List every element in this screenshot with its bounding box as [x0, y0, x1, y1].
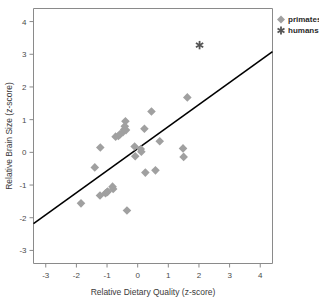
x-tick-label: -3	[42, 271, 50, 280]
point-marker-diamond	[147, 107, 156, 116]
y-tick-label: -1	[19, 181, 27, 190]
x-tick-label: 3	[227, 271, 232, 280]
y-axis-title: Relative Brain Size (z-score)	[4, 82, 14, 190]
x-axis: -3-2-101234	[42, 264, 263, 280]
x-axis-title: Relative Dietary Quality (z-score)	[91, 287, 216, 297]
x-tick-label: 4	[258, 271, 263, 280]
x-tick-label: 0	[135, 271, 140, 280]
legend-marker-diamond	[277, 16, 285, 24]
y-axis: -3-2-101234	[19, 18, 33, 256]
x-tick-label: -2	[73, 271, 81, 280]
point-marker-diamond	[179, 144, 188, 153]
point-marker-diamond	[179, 153, 188, 162]
y-tick-label: -3	[19, 246, 27, 255]
point-marker-diamond	[90, 163, 99, 172]
x-tick-label: 2	[197, 271, 202, 280]
point-marker-diamond	[183, 93, 192, 102]
point-marker-diamond	[140, 125, 149, 134]
legend-label: primates	[288, 15, 319, 24]
regression-line	[34, 52, 273, 224]
y-tick-label: 4	[22, 18, 27, 27]
plot-canvas: -3-2-101234 -3-2-101234 Relative Dietary…	[0, 0, 319, 301]
x-tick-label: 1	[166, 271, 171, 280]
point-marker-diamond	[151, 166, 160, 175]
y-tick-label: 0	[22, 148, 27, 157]
scatter-plot-figure: -3-2-101234 -3-2-101234 Relative Dietary…	[0, 0, 319, 301]
y-tick-label: -2	[19, 214, 27, 223]
legend-marker-asterisk	[278, 27, 285, 35]
point-marker-diamond	[155, 137, 164, 146]
series-primates	[77, 93, 192, 215]
point-marker-asterisk	[196, 41, 203, 49]
plot-frame	[34, 9, 273, 264]
data-points	[77, 41, 204, 215]
point-marker-diamond	[77, 199, 86, 208]
legend: primateshumans	[277, 15, 319, 35]
point-marker-diamond	[96, 143, 105, 152]
y-tick-label: 3	[22, 50, 27, 59]
x-tick-label: -1	[103, 271, 111, 280]
y-tick-label: 2	[22, 83, 27, 92]
y-tick-label: 1	[22, 116, 27, 125]
point-marker-diamond	[141, 168, 150, 177]
regression-line-path	[34, 52, 273, 224]
legend-label: humans	[288, 26, 319, 35]
series-humans	[196, 41, 203, 49]
point-marker-diamond	[123, 206, 132, 215]
